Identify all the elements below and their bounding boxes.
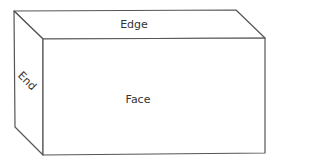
face-label: Face bbox=[126, 94, 151, 105]
edge-label: Edge bbox=[120, 19, 148, 30]
front-surface bbox=[43, 38, 265, 155]
